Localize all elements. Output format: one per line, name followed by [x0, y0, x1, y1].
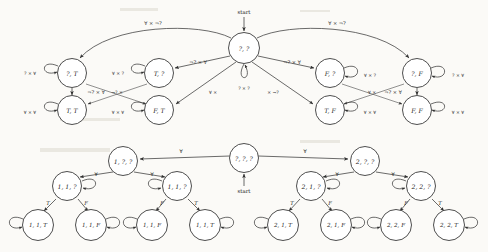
bottom-start-label: start [238, 188, 252, 194]
selfloop-label-FT: ∀ × ∀ [112, 110, 125, 115]
edge-label-cross-right: ∀ × [368, 90, 376, 95]
state-label: T, T [66, 107, 78, 114]
edge-label-qT-TT: ¬? × ∀ [87, 89, 106, 95]
selfloop-label-qT: ? × ∀ [24, 71, 36, 76]
branch-label-l5: T [290, 200, 294, 206]
edge-label-cross-left: ¬? × [111, 90, 123, 95]
selfloop-label-Tq: ∀ × ? [112, 71, 125, 76]
state-node[interactable]: ?, ?, ? [230, 144, 259, 173]
state-node[interactable]: ?, ? [229, 33, 260, 64]
state-node[interactable]: ?, F [403, 59, 432, 88]
top-start-label: start [238, 9, 252, 15]
state-label: 2, 1, ? [300, 183, 321, 190]
state-node[interactable]: 2, 2, F [381, 210, 412, 241]
state-label: ?, T [66, 70, 78, 77]
state-label: 1, ?, ? [114, 158, 133, 165]
state-node[interactable]: ?, T [58, 59, 87, 88]
state-label: 1, 1, T [29, 222, 48, 228]
state-label: 2, 2, T [439, 222, 459, 228]
state-label: 1, 1, ? [167, 183, 187, 190]
branch-label-l8: T [438, 200, 442, 206]
state-node[interactable]: 1, ?, ? [109, 147, 138, 176]
state-node[interactable]: T, F [316, 96, 345, 125]
selfloop-label-TF: ∀ × ∀ [364, 110, 377, 115]
state-node[interactable]: 1, 1, ? [163, 172, 192, 201]
selfloop-label-TT: ∀ × ∀ [24, 110, 37, 115]
automata-figure: start ∀ × ¬? ∀ × ¬? ¬? × ∀ ¬? × ∀ ∀ × × … [0, 0, 488, 252]
state-node[interactable]: F, ? [316, 59, 345, 88]
state-node[interactable]: 1, 1, T [190, 210, 221, 241]
state-label: 2, ?, ? [355, 158, 375, 165]
selfloop-label-qF: ? × ∀ [452, 73, 464, 78]
edge-label-qq-FT: ∀ × [209, 90, 217, 95]
selfloop-label-Fq: ∀ × ? [364, 73, 377, 78]
state-label: F, T [152, 107, 165, 114]
state-node[interactable]: F, F [403, 96, 432, 125]
state-node[interactable]: T, ? [145, 59, 174, 88]
edge-label-qq-Fq: ¬? × ∀ [283, 59, 302, 65]
state-node[interactable]: 2, 2, T [434, 210, 465, 241]
state-node[interactable]: 1, 1, F [137, 210, 168, 241]
state-label: 1, 1, T [196, 222, 215, 228]
state-node[interactable]: 2, 1, ? [297, 172, 326, 201]
state-node[interactable]: 2, 1, T [268, 210, 299, 241]
selfloop-label-qq: ? × ? [238, 86, 250, 91]
selfloop-label-FF: ∀ × ∀ [452, 110, 465, 115]
edge-label-qq-qF: ∀ × ¬? [328, 20, 346, 26]
state-label: F, ? [324, 70, 336, 77]
state-label: ?, F [411, 70, 423, 77]
state-node[interactable]: T, T [58, 96, 87, 125]
branch-label-l1: T [46, 200, 50, 206]
state-label: 2, 1, F [326, 222, 346, 228]
state-label: 2, 2, ? [410, 183, 431, 190]
state-node[interactable]: 1, 1, F [76, 210, 107, 241]
branch-label-l6: F [327, 200, 332, 206]
state-label: 1, 1, F [143, 222, 162, 228]
edge-label-qF-FF: ¬? × ∀ [384, 89, 403, 95]
branch-label-l4: T [194, 200, 198, 206]
branch-label-l2: F [83, 200, 88, 206]
state-node[interactable]: 1, 1, T [23, 210, 54, 241]
state-label: ?, ? [239, 45, 250, 52]
state-node[interactable]: 2, 1, F [321, 210, 352, 241]
state-label: F, F [410, 107, 423, 114]
state-label: 1, 1, F [82, 222, 101, 228]
state-node[interactable]: F, T [145, 96, 174, 125]
state-label: 2, 2, F [386, 222, 406, 228]
branch-label-l3: F [159, 200, 164, 206]
branch-label-l7: F [403, 200, 408, 206]
state-node[interactable]: 2, 2, ? [407, 172, 436, 201]
state-node[interactable]: 2, ?, ? [351, 147, 380, 176]
state-label: 1, 1, ? [57, 183, 77, 190]
state-label: ?, ?, ? [235, 155, 254, 162]
state-label: T, ? [154, 70, 165, 77]
state-label: 2, 1, T [273, 222, 293, 228]
state-label: T, F [324, 107, 336, 114]
edge-label-qq-Tq: ¬? × ∀ [189, 59, 208, 65]
edge-label-qq-TF: × ¬? [267, 90, 279, 95]
edge-label-qq-qT: ∀ × ¬? [144, 20, 162, 26]
state-node[interactable]: 1, 1, ? [53, 172, 82, 201]
